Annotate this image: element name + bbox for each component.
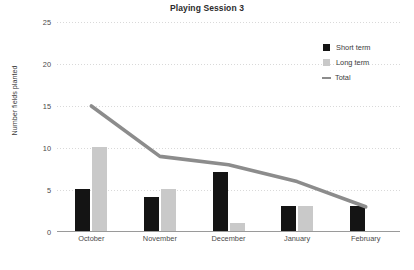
chart-title: Playing Session 3 (0, 3, 414, 13)
x-axis-tick-label: February (351, 234, 381, 243)
legend-item-label: Short term (336, 43, 371, 52)
x-axis-tick-label: November (143, 234, 177, 243)
y-axis-tick-label: 5 (47, 186, 51, 195)
bar-short-term-december (213, 172, 228, 231)
legend-item-short-term[interactable]: Short term (323, 40, 371, 55)
legend-item-label: Long term (336, 58, 369, 67)
bar-long-term-january (298, 206, 313, 231)
bar-long-term-december (230, 223, 245, 231)
bar-long-term-october (92, 147, 107, 231)
y-axis-title: Number fields planted (10, 41, 19, 161)
square-black-icon (323, 44, 330, 51)
bar-short-term-january (281, 206, 296, 231)
y-axis-tick-label: 0 (47, 228, 51, 237)
bar-short-term-february (350, 206, 365, 231)
bar-long-term-november (161, 189, 176, 231)
chart-legend: Short termLong termTotal (323, 40, 371, 85)
y-axis-tick-label: 25 (43, 18, 51, 27)
x-axis-tick-label: October (78, 234, 104, 243)
legend-item-label: Total (335, 73, 351, 82)
x-axis-tick-label: December (211, 234, 245, 243)
line-gray-icon (322, 77, 331, 79)
bar-short-term-october (75, 189, 90, 231)
y-axis-tick-label: 20 (43, 60, 51, 69)
bar-short-term-november (144, 197, 159, 231)
x-axis-tick-label: January (284, 234, 310, 243)
y-axis-tick-label: 10 (43, 144, 51, 153)
y-axis-tick-label: 15 (43, 102, 51, 111)
legend-item-total[interactable]: Total (323, 70, 371, 85)
square-gray-icon (323, 59, 330, 66)
legend-item-long-term[interactable]: Long term (323, 55, 371, 70)
chart-container: Playing Session 3 Number fields planted … (0, 0, 414, 270)
